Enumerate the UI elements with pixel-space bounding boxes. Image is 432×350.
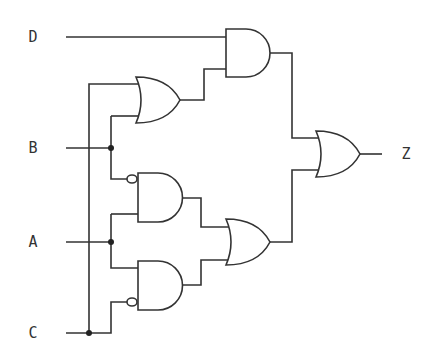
junction-dot-c: [86, 330, 92, 336]
inverter-bubble-c: [127, 298, 137, 306]
output-label-z: Z: [401, 147, 410, 162]
input-label-d: D: [28, 30, 37, 45]
and-gate-1: [226, 29, 270, 77]
wire-and2-to-or2: [182, 198, 229, 227]
wire-b: [66, 116, 139, 179]
junction-dot-b: [108, 145, 114, 151]
circuit-canvas: [0, 0, 432, 350]
wire-and1-to-or3: [270, 53, 320, 138]
wire-or2-to-or3: [270, 170, 320, 242]
or-gate-3: [316, 131, 360, 177]
inverter-bubble-b: [127, 175, 137, 183]
logic-circuit-diagram: D B A C Z: [0, 0, 432, 350]
wire-c: [66, 84, 139, 333]
wire-a: [66, 214, 138, 268]
or-gate-2: [226, 219, 270, 265]
wire-or1-to-and1: [180, 69, 226, 100]
wire-and3-to-or2: [182, 260, 229, 285]
input-label-b: B: [28, 141, 37, 156]
junction-dot-a: [108, 239, 114, 245]
input-label-c: C: [28, 326, 37, 341]
or-gate-1: [136, 77, 180, 123]
input-label-a: A: [28, 235, 37, 250]
